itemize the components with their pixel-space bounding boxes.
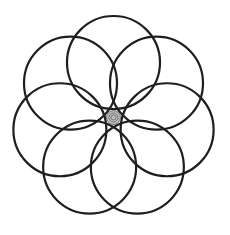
center-ornament	[107, 111, 121, 125]
rosette-diagram	[0, 0, 230, 235]
center-disc	[107, 111, 121, 125]
